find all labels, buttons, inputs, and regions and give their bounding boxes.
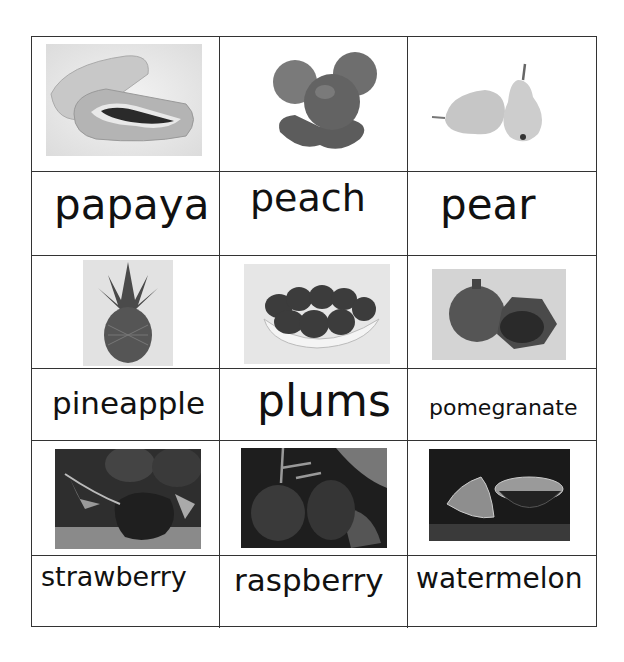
raspberry-image	[241, 448, 387, 548]
plums-image	[244, 264, 390, 364]
label-cell-peach: peach	[220, 172, 408, 256]
image-cell-strawberry	[32, 441, 220, 556]
label-cell-pear: pear	[408, 172, 596, 256]
fruit-label: raspberry	[234, 562, 384, 598]
peach-image	[260, 47, 380, 157]
fruit-label: papaya	[54, 180, 209, 229]
label-cell-strawberry: strawberry	[32, 556, 220, 628]
image-cell-pomegranate	[408, 256, 596, 369]
image-cell-papaya	[32, 37, 220, 172]
label-cell-pineapple: pineapple	[32, 369, 220, 441]
pomegranate-image	[432, 269, 566, 360]
fruit-label: plums	[257, 375, 391, 426]
image-cell-peach	[220, 37, 408, 172]
image-cell-watermelon	[408, 441, 596, 556]
image-cell-pineapple	[32, 256, 220, 369]
pear-image	[430, 62, 560, 152]
papaya-image	[46, 44, 202, 156]
fruit-label: strawberry	[41, 561, 187, 592]
image-cell-plums	[220, 256, 408, 369]
watermelon-image	[429, 449, 570, 541]
pineapple-image	[83, 260, 173, 366]
fruit-label: peach	[250, 176, 366, 220]
label-cell-plums: plums	[220, 369, 408, 441]
label-cell-pomegranate: pomegranate	[408, 369, 596, 441]
label-cell-raspberry: raspberry	[220, 556, 408, 628]
fruit-label: pineapple	[52, 385, 205, 421]
label-cell-papaya: papaya	[32, 172, 220, 256]
fruit-label: pear	[440, 180, 536, 229]
fruit-label: pomegranate	[429, 395, 577, 420]
fruit-vocabulary-grid: papaya peach pear	[31, 36, 597, 627]
image-cell-pear	[408, 37, 596, 172]
fruit-label: watermelon	[416, 562, 582, 595]
image-cell-raspberry	[220, 441, 408, 556]
strawberry-image	[55, 449, 201, 549]
label-cell-watermelon: watermelon	[408, 556, 596, 628]
